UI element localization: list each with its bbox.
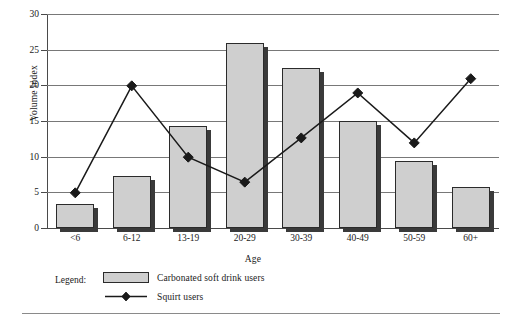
x-tick-label-13-19: 13-19	[158, 233, 218, 244]
y-tick-label-25: 25	[20, 45, 39, 55]
y-tick-label-20: 20	[20, 80, 39, 90]
y-tick-label-10: 10	[20, 152, 39, 162]
legend-line-marker	[103, 291, 149, 302]
legend-bar-swatch	[103, 272, 149, 283]
legend-line-label: Squirt users	[157, 292, 203, 302]
legend-bar-label: Carbonated soft drink users	[157, 273, 264, 283]
line-path	[75, 79, 471, 193]
y-tick-label-5: 5	[20, 187, 39, 197]
x-tick-label-60+: 60+	[441, 233, 501, 244]
chart-figure: Volume Index 051015202530 <66-1213-1920-…	[0, 0, 506, 326]
x-axis-title: Age	[0, 254, 506, 264]
y-tick-label-15: 15	[20, 116, 39, 126]
y-tick-label-0: 0	[20, 223, 39, 233]
x-tick-label-30-39: 30-39	[271, 233, 331, 244]
legend-entry-line: Squirt users	[103, 291, 203, 302]
y-tick-label-30: 30	[20, 9, 39, 19]
x-tick-label-40-49: 40-49	[328, 233, 388, 244]
x-tick-label-20-29: 20-29	[215, 233, 275, 244]
legend-entry-bar: Carbonated soft drink users	[103, 272, 264, 283]
legend-title: Legend:	[55, 275, 86, 285]
x-tick-label-6-12: 6-12	[102, 233, 162, 244]
x-tick-label-<6: <6	[45, 233, 105, 244]
x-tick-label-50-59: 50-59	[384, 233, 444, 244]
line-series	[47, 14, 499, 229]
bottom-divider	[22, 313, 500, 314]
plot-area	[47, 14, 499, 228]
line-marker-<6	[70, 188, 80, 198]
